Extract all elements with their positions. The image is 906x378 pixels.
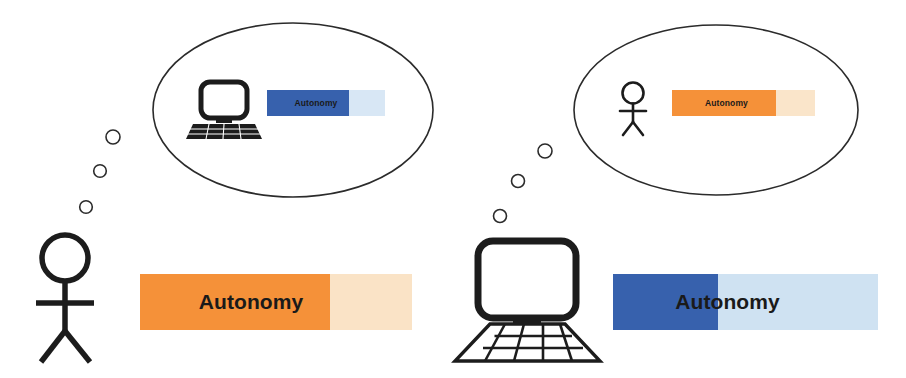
thought-bubble-right-dot-3	[494, 210, 507, 223]
desktop-computer-icon-large	[455, 241, 600, 361]
autonomy-bar-label: Autonomy	[295, 98, 338, 108]
autonomy-bar-track	[776, 90, 815, 116]
thought-bubble-left-dot-2	[94, 165, 107, 178]
autonomy-bar-computer-actual: Autonomy	[613, 274, 878, 330]
thought-bubble-right-dot-2	[512, 175, 525, 188]
diagram-canvas: Autonomy Autonomy Autonomy Autonomy	[0, 0, 906, 378]
stick-figure-person-icon-large	[36, 235, 94, 362]
autonomy-bar-label: Autonomy	[705, 98, 748, 108]
autonomy-bar-track	[330, 274, 412, 330]
autonomy-bar-computer-perceived: Autonomy	[267, 90, 385, 116]
thought-bubble-left-dot-1	[106, 130, 120, 144]
thought-bubble-right-dot-1	[538, 144, 552, 158]
autonomy-bar-label: Autonomy	[199, 290, 304, 314]
autonomy-bar-human-perceived: Autonomy	[672, 90, 815, 116]
autonomy-bar-track	[349, 90, 385, 116]
autonomy-bar-label: Autonomy	[675, 290, 780, 314]
thought-bubble-left-dot-3	[80, 201, 93, 214]
autonomy-bar-human-actual: Autonomy	[140, 274, 412, 330]
